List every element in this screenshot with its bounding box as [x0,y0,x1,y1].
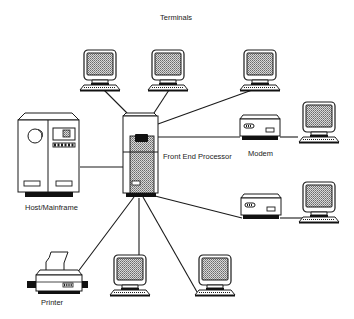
terminal-bottom-1-icon [110,255,150,297]
host-mainframe-label: Host/Mainframe [25,203,78,212]
edge-fep-modem-2 [155,196,242,218]
printer-label: Printer [41,298,63,307]
terminals-label: Terminals [160,13,192,22]
mainframe-icon [18,113,79,197]
edge-fep-term-top-2 [154,90,169,113]
front-end-processor-label: Front End Processor [163,152,232,161]
terminal-top-1-icon [80,50,120,92]
terminal-top-2-icon [148,50,188,92]
terminal-right-2-icon [299,182,339,224]
front-end-processor-icon [123,113,158,197]
edge-fep-term-top-1 [104,90,127,113]
terminal-right-1-icon [299,102,339,144]
edge-fep-term-bottom-2 [143,197,197,292]
terminal-top-3-icon [240,50,280,92]
modem-2-icon [241,194,281,219]
modem-1-icon [240,115,280,140]
printer-icon [27,252,88,294]
terminal-bottom-2-icon [195,255,235,297]
modem-label: Modem [248,149,273,158]
